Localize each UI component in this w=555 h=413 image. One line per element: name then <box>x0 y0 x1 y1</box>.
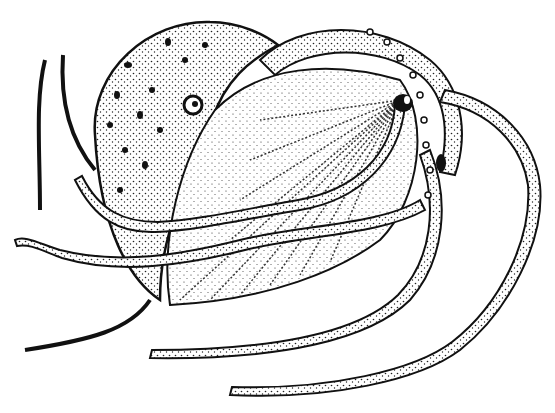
tentacle-lower-left <box>25 300 150 350</box>
eye-upper <box>184 96 202 114</box>
illustration-canvas <box>0 0 555 413</box>
eye-right <box>393 94 413 112</box>
tentacle-left-1 <box>39 60 45 210</box>
siphon-dark <box>436 154 446 172</box>
argonaut-illustration <box>0 0 555 413</box>
tentacle-left-2 <box>62 55 95 170</box>
